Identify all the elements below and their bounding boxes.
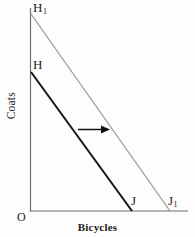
label-h1-text: H — [33, 0, 42, 15]
label-j: J — [131, 194, 136, 207]
y-axis-label: Coats — [6, 66, 18, 146]
label-h: H — [33, 58, 42, 71]
label-j1: J1 — [168, 194, 178, 207]
ppf-chart-canvas — [0, 0, 195, 237]
x-axis-label: Bicycles — [0, 222, 195, 233]
label-j1-subscript: 1 — [173, 200, 178, 209]
label-h1: H1 — [33, 1, 47, 14]
shift-arrow-head — [101, 126, 110, 134]
shifted-frontier-line — [31, 14, 170, 211]
label-h1-subscript: 1 — [42, 7, 47, 16]
ppf-figure: H1 H J J1 O Bicycles Coats — [0, 0, 195, 237]
original-frontier-line — [31, 72, 132, 211]
shift-arrow-icon — [78, 126, 110, 134]
